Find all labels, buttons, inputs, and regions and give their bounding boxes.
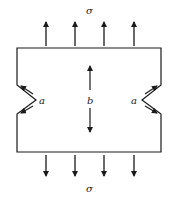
notch-label-right: a (131, 95, 137, 106)
stress-label-bottom: σ (86, 183, 94, 194)
stress-label-top: σ (86, 5, 94, 16)
top-stress-arrows (46, 22, 134, 46)
notched-plate-diagram: σ σ a a b (0, 0, 172, 198)
bottom-stress-arrows (46, 155, 134, 176)
notch-label-left: a (39, 95, 45, 106)
width-label: b (87, 95, 93, 106)
